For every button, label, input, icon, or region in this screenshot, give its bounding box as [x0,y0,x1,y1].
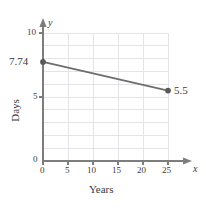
data-point-start [40,59,46,65]
data-label-end: 5.5 [174,85,188,96]
y-axis-title: Days [10,91,21,131]
y-tick-label-10: 10 [27,28,36,37]
y-tick-label-0: 0 [33,155,38,164]
x-tick-label-20: 20 [137,166,146,175]
data-label-start: 7.74 [9,56,28,67]
x-tick-label-15: 15 [112,166,121,175]
x-tick-label-5: 5 [65,166,70,175]
y-tick-label-5: 5 [33,92,38,101]
x-tick-label-25: 25 [162,166,171,175]
x-axis-arrow [183,157,192,164]
y-axis-symbol: y [48,18,52,28]
x-tick-label-10: 10 [87,166,96,175]
data-line-series-1 [43,62,168,91]
y-axis-arrow [39,18,46,27]
x-axis-symbol: x [193,164,197,174]
x-axis-title: Years [89,184,114,195]
x-tick-label-0: 0 [40,166,45,175]
grid-horizontal [43,33,168,148]
data-point-end [165,88,171,94]
line-chart: 10 5 0 0 5 10 15 20 25 y x Days Years 7.… [0,0,206,208]
